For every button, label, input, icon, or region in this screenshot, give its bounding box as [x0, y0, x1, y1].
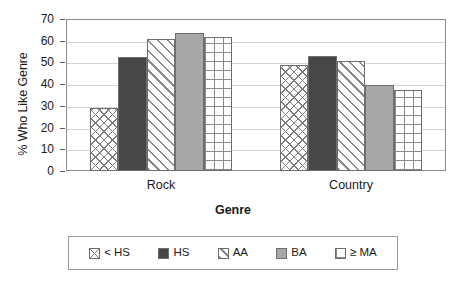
y-tick-label: 70: [32, 13, 54, 25]
y-tick-mark: [60, 84, 65, 85]
legend-item: BA: [276, 247, 306, 259]
x-category-label-country: Country: [301, 178, 401, 192]
bar-country-ma: [394, 90, 422, 171]
y-tick-label: 0: [32, 165, 54, 177]
legend-label: < HS: [104, 247, 130, 259]
y-tick-label: 20: [32, 122, 54, 134]
legend-label: ≥ MA: [350, 247, 377, 259]
y-tick-label: 30: [32, 100, 54, 112]
bar-chart-figure: % Who Like Genre 010203040506070 RockCou…: [0, 0, 466, 284]
y-tick-label: 40: [32, 78, 54, 90]
y-tick-mark: [60, 19, 65, 20]
y-axis: 010203040506070: [0, 0, 66, 284]
legend-item: HS: [158, 247, 189, 259]
legend-item: ≥ MA: [335, 247, 377, 259]
bars-layer: [66, 19, 446, 171]
legend-swatch-icon: [276, 248, 287, 259]
y-tick-mark: [60, 149, 65, 150]
legend-label: BA: [291, 247, 306, 259]
y-tick-label: 10: [32, 143, 54, 155]
bar-rock-hs: [90, 108, 118, 171]
legend-swatch-icon: [218, 248, 229, 259]
bar-rock-ma: [204, 37, 232, 171]
bar-country-hs: [308, 56, 336, 171]
y-tick-mark: [60, 41, 65, 42]
y-tick-mark: [60, 171, 65, 172]
y-tick-label: 50: [32, 56, 54, 68]
legend-swatch-icon: [335, 248, 346, 259]
chart-legend: < HSHSAABA≥ MA: [68, 236, 398, 270]
y-tick-mark: [60, 128, 65, 129]
legend-label: HS: [173, 247, 189, 259]
legend-label: AA: [233, 247, 248, 259]
bar-country-hs: [280, 65, 308, 171]
y-tick-mark: [60, 62, 65, 63]
x-category-label-rock: Rock: [111, 178, 211, 192]
legend-swatch-icon: [89, 248, 100, 259]
y-tick-label: 60: [32, 35, 54, 47]
bar-rock-hs: [118, 57, 146, 171]
bar-rock-aa: [147, 39, 175, 171]
x-axis-title: Genre: [0, 203, 466, 217]
bar-country-aa: [337, 61, 365, 171]
y-tick-mark: [60, 106, 65, 107]
legend-item: AA: [218, 247, 248, 259]
bar-rock-ba: [175, 33, 203, 171]
legend-swatch-icon: [158, 248, 169, 259]
bar-country-ba: [365, 85, 393, 171]
legend-item: < HS: [89, 247, 130, 259]
